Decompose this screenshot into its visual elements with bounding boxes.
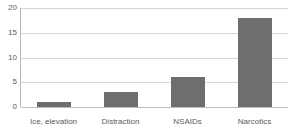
x-slot-nsaids: NSAIDs <box>154 110 221 130</box>
y-tick-label-0: 0 <box>13 103 17 111</box>
x-tick-label-nsaids: NSAIDs <box>173 117 201 126</box>
x-tick-label-ice-elevation: Ice, elevation <box>30 117 77 126</box>
x-slot-ice-elevation: Ice, elevation <box>20 110 87 130</box>
plot-area <box>20 8 288 107</box>
bar-ice-elevation[interactable] <box>37 102 71 107</box>
bar-distraction[interactable] <box>104 92 138 107</box>
bar-chart: 20 15 10 5 0 <box>0 0 290 132</box>
y-tick-label-15: 15 <box>8 29 17 37</box>
bar-nsaids[interactable] <box>171 77 205 107</box>
gridline-0-baseline <box>21 107 288 108</box>
bar-narcotics[interactable] <box>238 18 272 107</box>
bar-slot-narcotics <box>221 8 288 107</box>
bar-slot-ice-elevation <box>21 8 88 107</box>
bars-layer <box>21 8 288 107</box>
y-tick-label-5: 5 <box>13 78 17 86</box>
bar-slot-nsaids <box>155 8 222 107</box>
x-axis: Ice, elevation Distraction NSAIDs Narcot… <box>20 110 288 130</box>
y-tick-label-20: 20 <box>8 4 17 12</box>
x-tick-label-distraction: Distraction <box>102 117 140 126</box>
x-slot-narcotics: Narcotics <box>221 110 288 130</box>
x-tick-label-narcotics: Narcotics <box>238 117 271 126</box>
y-tick-label-10: 10 <box>8 54 17 62</box>
y-axis: 20 15 10 5 0 <box>0 0 20 132</box>
bar-slot-distraction <box>88 8 155 107</box>
x-slot-distraction: Distraction <box>87 110 154 130</box>
